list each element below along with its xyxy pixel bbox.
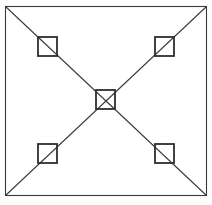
node-square-bottom-left <box>38 144 57 163</box>
diagram-canvas <box>0 0 212 205</box>
node-square-bottom-right <box>155 144 174 163</box>
